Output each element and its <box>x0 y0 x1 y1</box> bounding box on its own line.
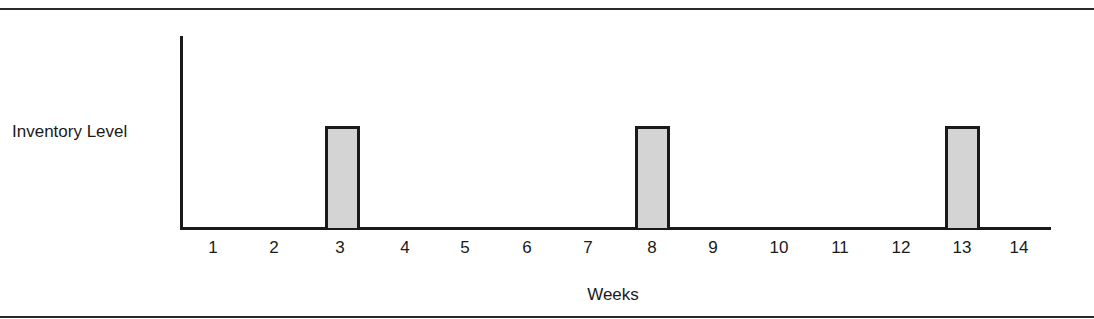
bar-week-13 <box>945 126 980 228</box>
x-axis <box>180 227 1051 230</box>
x-tick-10: 10 <box>759 238 799 258</box>
x-axis-label: Weeks <box>563 285 663 305</box>
x-tick-12: 12 <box>881 238 921 258</box>
top-border <box>0 8 1094 10</box>
x-tick-6: 6 <box>507 238 547 258</box>
x-tick-7: 7 <box>568 238 608 258</box>
x-tick-4: 4 <box>385 238 425 258</box>
x-tick-5: 5 <box>445 238 485 258</box>
bar-week-8 <box>635 126 670 228</box>
x-tick-13: 13 <box>942 238 982 258</box>
x-tick-8: 8 <box>632 238 672 258</box>
x-tick-1: 1 <box>193 238 233 258</box>
bottom-border <box>0 316 1094 318</box>
bar-week-3 <box>325 126 360 228</box>
x-tick-11: 11 <box>820 238 860 258</box>
x-tick-9: 9 <box>693 238 733 258</box>
x-tick-14: 14 <box>999 238 1039 258</box>
x-tick-3: 3 <box>320 238 360 258</box>
y-axis <box>180 36 183 230</box>
y-axis-label: Inventory Level <box>12 122 127 142</box>
x-tick-2: 2 <box>254 238 294 258</box>
